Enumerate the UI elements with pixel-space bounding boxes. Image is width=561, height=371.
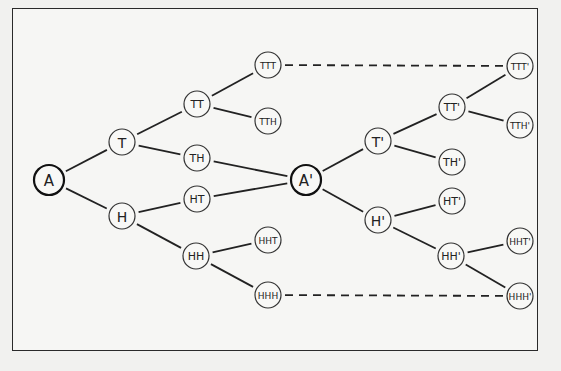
node-th: TH	[184, 145, 210, 171]
node-hht1: HHT'	[507, 228, 533, 254]
node-hh1: HH'	[438, 243, 464, 269]
node-label: TT	[189, 98, 204, 111]
node-ht: HT	[184, 186, 210, 212]
node-label: TTH'	[509, 121, 530, 131]
edge-hh1-hhh1	[466, 265, 506, 288]
node-hhh: HHH	[255, 282, 281, 308]
node-label: HHT'	[509, 237, 531, 247]
node-label: A'	[299, 172, 313, 190]
edge-a1-h1	[323, 189, 364, 212]
node-label: HHT	[258, 236, 278, 246]
edge-h-hh	[137, 224, 181, 248]
edge-tt-tth	[214, 108, 252, 117]
node-tth: TTH	[255, 108, 281, 134]
node-ttt: TTT	[255, 52, 281, 78]
node-t1: T'	[365, 128, 391, 154]
edge-tt1-tth1	[468, 111, 503, 120]
edge-a1-t1	[323, 149, 363, 171]
node-t: T	[109, 129, 135, 155]
node-label: TTT	[259, 61, 277, 71]
node-h1: H'	[365, 207, 391, 233]
edge-tt-ttt	[212, 73, 253, 96]
dashed-link-ttt-ttt1	[285, 65, 503, 66]
edge-t1-tt1	[393, 114, 436, 134]
node-label: HH	[188, 250, 205, 263]
node-label: H	[117, 209, 128, 225]
edge-a-t	[66, 150, 107, 171]
node-hhh1: HHH'	[507, 283, 533, 309]
node-hht: HHT	[255, 227, 281, 253]
dashed-link-hhh-hhh1	[285, 295, 503, 296]
node-label: TH'	[442, 156, 461, 169]
node-th1: TH'	[439, 149, 465, 175]
tree-diagram: ATHTTTHHTHHTTTTTHHHTHHHA'T'H'TT'TH'HT'HH…	[0, 0, 561, 371]
edge-h-ht	[139, 203, 181, 212]
edge-tt1-ttt1	[467, 75, 506, 98]
edge-t-tt	[137, 112, 182, 135]
edge-a-h	[66, 188, 107, 208]
node-label: TT'	[443, 101, 460, 114]
node-label: H'	[371, 213, 385, 229]
edge-h1-ht1	[394, 205, 435, 216]
node-ht1: HT'	[439, 188, 465, 214]
node-a1: A'	[291, 165, 321, 195]
node-label: TTT'	[510, 62, 530, 72]
edge-hh1-hht1	[468, 245, 504, 253]
edge-t1-th1	[394, 146, 435, 158]
node-tt1: TT'	[439, 94, 465, 120]
node-label: TH	[189, 152, 205, 165]
node-label: HH'	[441, 250, 461, 263]
edge-hh-hhh	[211, 264, 253, 287]
node-tt: TT	[184, 91, 210, 117]
edge-t-th	[139, 146, 181, 155]
node-label: A	[44, 172, 55, 190]
node-label: HT	[190, 193, 205, 206]
node-label: HT'	[443, 195, 461, 208]
node-label: HHH	[258, 291, 278, 301]
edge-h1-hh1	[393, 228, 436, 249]
node-tth1: TTH'	[507, 112, 533, 138]
node-label: T'	[371, 134, 384, 150]
nodes-layer: ATHTTTHHTHHTTTTTHHHTHHHA'T'H'TT'TH'HT'HH…	[34, 52, 533, 309]
node-label: TTH	[258, 117, 277, 127]
node-h: H	[109, 203, 135, 229]
node-a: A	[34, 165, 64, 195]
node-label: T	[117, 135, 127, 151]
node-ttt1: TTT'	[507, 53, 533, 79]
edge-th-a1	[214, 161, 288, 176]
node-label: HHH'	[509, 292, 532, 302]
edge-ht-a1	[214, 183, 288, 196]
node-hh: HH	[183, 243, 209, 269]
edge-hh-hht	[213, 244, 252, 253]
